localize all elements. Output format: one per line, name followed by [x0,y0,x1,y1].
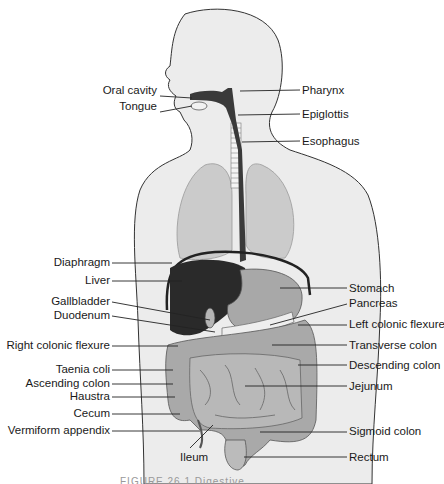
small-intestine [190,354,302,429]
label-diaphragm: Diaphragm [54,256,110,269]
label-vermiform-appendix: Vermiform appendix [8,424,110,437]
label-ascending-colon: Ascending colon [26,377,110,390]
anatomy-illustration [0,0,444,484]
label-sigmoid-colon: Sigmoid colon [349,425,421,438]
label-left-colonic-flexure: Left colonic flexure [349,318,444,331]
label-taenia-coli: Taenia coli [56,363,110,376]
label-transverse-colon: Transverse colon [349,339,437,352]
tongue [191,102,207,110]
label-tongue: Tongue [119,100,157,113]
label-stomach: Stomach [349,282,394,295]
figure-caption: FIGURE 26.1 Digestive [120,476,245,484]
label-cecum: Cecum [74,407,110,420]
label-esophagus: Esophagus [302,135,360,148]
digestive-system-diagram: Oral cavity Tongue Diaphragm Liver Gallb… [0,0,444,484]
label-descending-colon: Descending colon [349,359,440,372]
label-ileum: Ileum [180,451,208,464]
label-right-colonic-flexure: Right colonic flexure [6,339,110,352]
label-rectum: Rectum [349,451,389,464]
label-gallbladder: Gallbladder [51,295,110,308]
label-liver: Liver [85,274,110,287]
label-oral-cavity: Oral cavity [103,84,157,97]
label-pharynx: Pharynx [302,84,344,97]
label-epiglottis: Epiglottis [302,108,349,121]
label-jejunum: Jejunum [349,380,392,393]
gallbladder [205,308,215,328]
label-duodenum: Duodenum [54,309,110,322]
label-pancreas: Pancreas [349,297,398,310]
label-haustra: Haustra [70,390,110,403]
